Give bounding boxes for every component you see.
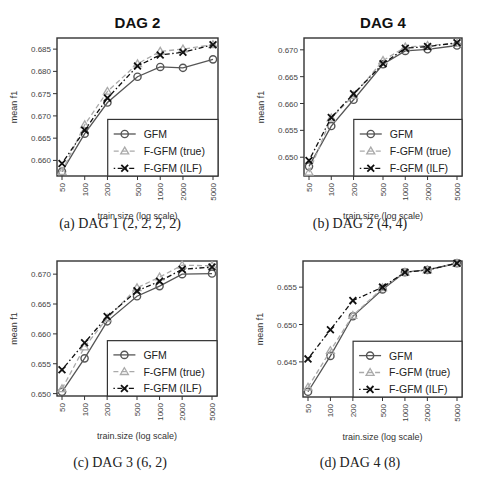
chart-panel-a: DAG 20.6600.6650.6700.6750.6800.685mean …	[0, 0, 240, 239]
chart-panel-b: DAG 40.6500.6550.6600.6650.670mean f1501…	[240, 0, 480, 239]
y-axis-label: mean f1	[255, 313, 265, 346]
x-tick-label: 500	[133, 402, 142, 416]
y-tick-label: 0.660	[278, 100, 299, 109]
x-tick-label: 1000	[401, 403, 410, 421]
y-tick-label: 0.650	[31, 390, 52, 399]
legend-label: GFM	[390, 128, 413, 140]
caption-d: (d) DAG 4 (8)	[320, 455, 400, 471]
legend-label: GFM	[389, 350, 412, 362]
x-tick-label: 200	[350, 182, 359, 196]
x-tick-label: 2000	[424, 182, 433, 200]
y-tick-label: 0.660	[31, 156, 52, 165]
x-marker	[349, 297, 356, 304]
y-tick-label: 0.645	[277, 358, 298, 367]
chart-title: DAG 4	[360, 14, 407, 31]
chart-dag4: 0.6450.6500.655mean f1501002005001000200…	[240, 239, 480, 478]
x-axis-label: train.size (log scale)	[97, 431, 177, 441]
y-tick-label: 0.650	[277, 321, 298, 330]
chart-dag1: DAG 20.6600.6650.6700.6750.6800.685mean …	[0, 0, 240, 239]
x-tick-label: 1000	[156, 402, 165, 420]
x-tick-label: 200	[349, 403, 358, 417]
x-tick-label: 500	[134, 182, 143, 196]
legend: GFMF-GFM (true)F-GFM (ILF)	[353, 341, 462, 397]
y-tick-label: 0.670	[278, 46, 299, 55]
y-tick-label: 0.655	[31, 360, 52, 369]
caption-c: (c) DAG 3 (6, 2)	[73, 455, 167, 471]
caption-b: (b) DAG 2 (4, 4)	[313, 216, 407, 232]
x-tick-label: 200	[103, 402, 112, 416]
legend-label: F-GFM (ILF)	[143, 382, 201, 394]
x-marker	[59, 366, 66, 373]
legend-label: GFM	[144, 128, 167, 140]
y-tick-label: 0.680	[31, 67, 52, 76]
x-tick-label: 100	[81, 402, 90, 416]
y-tick-label: 0.655	[277, 283, 298, 292]
y-tick-label: 0.685	[31, 45, 52, 54]
x-tick-label: 5000	[208, 402, 217, 420]
legend-label: GFM	[143, 349, 166, 361]
x-axis-label: train.size (log scale)	[342, 432, 422, 442]
chart-dag3: 0.6500.6550.6600.6650.670mean f150100200…	[0, 239, 240, 478]
x-tick-label: 100	[327, 182, 336, 196]
legend-label: F-GFM (ILF)	[144, 162, 202, 174]
chart-panel-c: 0.6500.6550.6600.6650.670mean f150100200…	[0, 239, 240, 478]
x-marker	[327, 326, 334, 333]
x-tick-label: 50	[305, 182, 314, 191]
y-axis-label: mean f1	[256, 91, 266, 124]
x-tick-label: 100	[326, 403, 335, 417]
legend-label: F-GFM (true)	[390, 145, 451, 157]
x-marker	[59, 160, 66, 167]
y-tick-label: 0.675	[31, 90, 52, 99]
legend-label: F-GFM (ILF)	[390, 162, 448, 174]
x-marker	[157, 52, 164, 59]
y-tick-label: 0.665	[31, 300, 52, 309]
y-tick-label: 0.665	[31, 134, 52, 143]
y-axis-label: mean f1	[9, 312, 19, 345]
chart-title: DAG 2	[115, 14, 161, 31]
x-tick-label: 5000	[453, 403, 462, 421]
x-tick-label: 2000	[179, 182, 188, 200]
y-tick-label: 0.670	[31, 112, 52, 121]
x-tick-label: 100	[81, 182, 90, 196]
y-tick-label: 0.670	[31, 270, 52, 279]
legend-label: F-GFM (true)	[143, 366, 204, 378]
chart-panel-d: 0.6450.6500.655mean f1501002005001000200…	[240, 239, 480, 478]
x-tick-label: 1000	[401, 182, 410, 200]
x-tick-label: 2000	[423, 403, 432, 421]
legend-label: F-GFM (true)	[144, 145, 205, 157]
x-tick-label: 50	[58, 402, 67, 411]
legend-label: F-GFM (true)	[389, 366, 450, 378]
x-tick-label: 5000	[209, 182, 218, 200]
y-axis-label: mean f1	[9, 91, 19, 124]
legend-label: F-GFM (ILF)	[389, 383, 447, 395]
caption-a: (a) DAG 1 (2, 2, 2, 2)	[59, 216, 181, 232]
x-marker	[81, 339, 88, 346]
x-marker	[305, 355, 312, 362]
x-marker	[156, 278, 163, 285]
x-tick-label: 1000	[156, 182, 165, 200]
x-tick-label: 2000	[178, 402, 187, 420]
x-tick-label: 50	[58, 182, 67, 191]
x-tick-label: 500	[379, 403, 388, 417]
legend: GFMF-GFM (true)F-GFM (ILF)	[107, 341, 217, 396]
x-tick-label: 50	[304, 403, 313, 412]
legend: GFMF-GFM (true)F-GFM (ILF)	[108, 119, 218, 176]
y-tick-label: 0.665	[278, 73, 299, 82]
y-tick-label: 0.655	[278, 126, 299, 135]
x-tick-label: 5000	[453, 182, 462, 200]
y-tick-label: 0.660	[31, 330, 52, 339]
legend: GFMF-GFM (true)F-GFM (ILF)	[354, 119, 462, 176]
x-tick-label: 200	[103, 182, 112, 196]
y-tick-label: 0.650	[278, 153, 299, 162]
x-tick-label: 500	[379, 182, 388, 196]
x-marker	[104, 95, 111, 102]
chart-dag2: DAG 40.6500.6550.6600.6650.670mean f1501…	[240, 0, 480, 239]
